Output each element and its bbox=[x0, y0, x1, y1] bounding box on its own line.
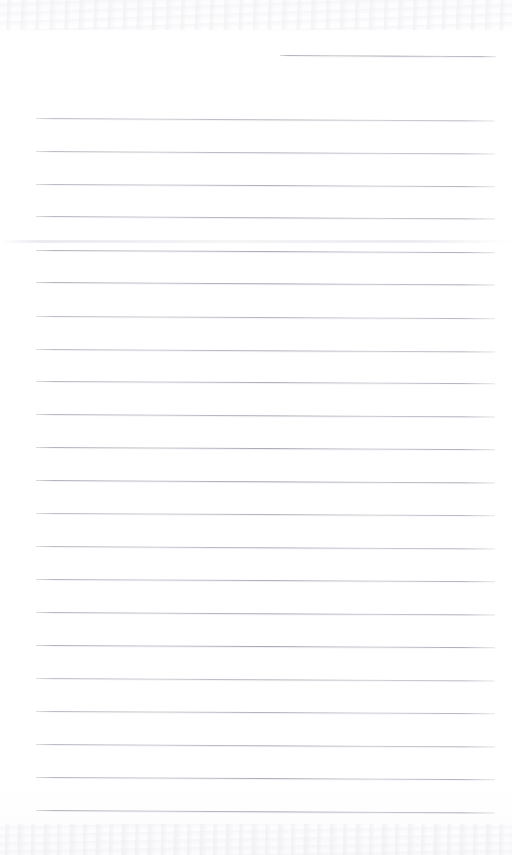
scan-noise-bottom bbox=[0, 824, 512, 855]
ruled-line bbox=[36, 184, 495, 187]
page-fold-band bbox=[0, 240, 512, 243]
ruled-line bbox=[36, 349, 495, 352]
ruled-line bbox=[36, 250, 495, 253]
ruled-line bbox=[36, 480, 495, 483]
ruled-line bbox=[36, 744, 495, 747]
ruled-line bbox=[36, 151, 495, 154]
ruled-line bbox=[36, 118, 495, 121]
ruled-line bbox=[36, 282, 495, 285]
ruled-line bbox=[36, 316, 495, 319]
ruled-line bbox=[36, 645, 495, 648]
partial-top-rule bbox=[280, 55, 496, 57]
ruled-line bbox=[36, 711, 495, 714]
ruled-line bbox=[36, 414, 495, 417]
ruled-line bbox=[36, 381, 495, 384]
ruled-line bbox=[36, 546, 495, 549]
ruled-line bbox=[36, 612, 495, 615]
ruled-line bbox=[36, 777, 495, 780]
ruled-line bbox=[36, 513, 495, 516]
ruled-line bbox=[36, 678, 495, 681]
ruled-line bbox=[36, 447, 495, 450]
ruled-line bbox=[36, 216, 495, 219]
scan-noise-top bbox=[0, 0, 512, 30]
scanned-page bbox=[0, 0, 512, 855]
ruled-line bbox=[36, 579, 495, 582]
ruled-line bbox=[36, 810, 495, 813]
paper-background bbox=[0, 0, 512, 855]
